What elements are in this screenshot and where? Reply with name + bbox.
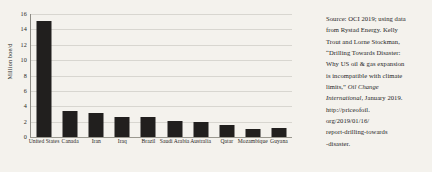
bar-slot xyxy=(83,14,109,137)
bar xyxy=(37,21,52,137)
x-axis-tick-label: Qatar xyxy=(220,139,233,145)
source-line-6: is incompatible with climate xyxy=(326,72,402,79)
x-axis-tick-label: Saudi Arabia xyxy=(160,139,190,145)
bar xyxy=(115,117,130,137)
y-axis-title: Million boe/d xyxy=(6,32,13,92)
bar-chart-figure: 0246810121416 Million boe/d United State… xyxy=(0,4,300,160)
source-line-10: org/2019/01/16/ xyxy=(326,117,369,124)
x-axis-tick-labels: United StatesCanadaIranIraqBrazilSaudi A… xyxy=(31,139,292,157)
bar-slot xyxy=(31,14,57,137)
x-axis-tick-label: Australia xyxy=(190,139,211,145)
bar-slot xyxy=(240,14,266,137)
source-line-5: Why US oil & gas expansion xyxy=(326,60,404,67)
bar xyxy=(89,113,104,137)
y-axis-tick-labels: 0246810121416 xyxy=(0,4,27,160)
x-axis-tick-label: United States xyxy=(29,139,60,145)
bar xyxy=(245,129,260,137)
source-line-7-italic: Oil Change xyxy=(348,83,379,90)
bar-slot xyxy=(214,14,240,137)
bar-slot xyxy=(188,14,214,137)
y-axis-tick-label: 2 xyxy=(5,119,27,125)
source-line-2: from Rystad Energy. Kelly xyxy=(326,26,398,33)
source-line-4: “Drilling Towards Disaster: xyxy=(326,49,400,56)
bar-slot xyxy=(57,14,83,137)
bar-series xyxy=(31,14,292,137)
source-line-9: http://priceofoil. xyxy=(326,106,370,113)
x-axis-tick-label: Brazil xyxy=(141,139,155,145)
source-line-11: report-drilling-towards xyxy=(326,128,388,135)
source-line-1: Source: OCI 2019; using data xyxy=(326,15,406,22)
bar xyxy=(167,121,182,137)
source-line-3: Trout and Lorne Stockman, xyxy=(326,38,400,45)
bar xyxy=(63,111,78,137)
bar-slot xyxy=(266,14,292,137)
bar xyxy=(141,117,156,137)
source-line-7-plain: limits,” xyxy=(326,83,348,90)
x-axis-tick-label: Iraq xyxy=(118,139,127,145)
bar xyxy=(271,128,286,137)
bar-slot xyxy=(162,14,188,137)
y-axis-tick-label: 0 xyxy=(5,134,27,140)
source-line-8-italic: International xyxy=(326,94,361,101)
x-axis-tick-label: Iran xyxy=(92,139,101,145)
x-axis-tick-label: Canada xyxy=(62,139,79,145)
source-line-12: -disaster. xyxy=(326,140,350,147)
x-axis-tick-label: Mozambique xyxy=(238,139,268,145)
bar xyxy=(219,125,234,137)
bar-slot xyxy=(109,14,135,137)
x-axis-tick-label: Guyana xyxy=(270,139,288,145)
y-axis-tick-label: 4 xyxy=(5,103,27,109)
source-line-8-plain: , January 2019. xyxy=(361,94,402,101)
bar xyxy=(193,122,208,137)
source-citation: Source: OCI 2019; using data from Rystad… xyxy=(326,13,430,149)
y-axis-tick-label: 16 xyxy=(5,11,27,17)
bar-slot xyxy=(135,14,161,137)
page-root: 0246810121416 Million boe/d United State… xyxy=(0,0,432,172)
